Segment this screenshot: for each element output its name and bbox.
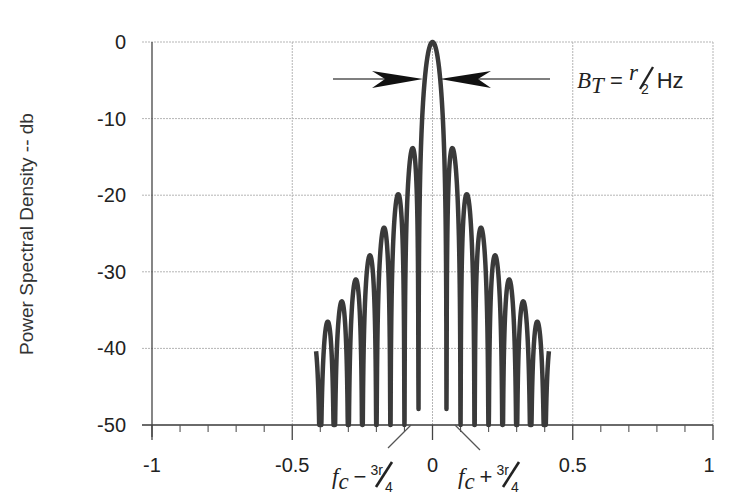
grid-lines <box>142 42 713 425</box>
x-tick-label: -0.5 <box>275 454 309 476</box>
x-tick-label: 1 <box>703 454 714 476</box>
x-axis-tick-labels: -1-0.500.51 <box>143 454 714 476</box>
bandwidth-annotation: BT = r2Hz <box>333 60 684 98</box>
y-tick-label: -40 <box>97 337 126 359</box>
svg-text:fc−3r4: fc−3r4 <box>332 462 393 495</box>
x-tick-label: 0 <box>427 454 438 476</box>
bandwidth-symbol: B <box>577 68 591 93</box>
fc-plus-annotation: fc+3r4 <box>455 425 519 495</box>
y-tick-label: -10 <box>97 108 126 130</box>
bandwidth-unit: Hz <box>657 68 684 93</box>
x-tick-label: -1 <box>143 454 161 476</box>
x-tick-label: 0.5 <box>559 454 587 476</box>
y-tick-label: -20 <box>97 184 126 206</box>
fc-minus-annotation: fc−3r4 <box>332 425 411 495</box>
y-tick-label: 0 <box>115 31 126 53</box>
psd-chart: 0-10-20-30-40-50 -1-0.500.51 Power Spect… <box>0 0 736 504</box>
svg-text:BT = r2Hz: BT = r2Hz <box>577 60 684 98</box>
y-tick-label: -50 <box>97 414 126 436</box>
axes <box>142 42 713 440</box>
y-axis-label: Power Spectral Density -- db <box>16 113 37 355</box>
y-axis-tick-labels: 0-10-20-30-40-50 <box>97 31 126 436</box>
y-tick-label: -30 <box>97 261 126 283</box>
